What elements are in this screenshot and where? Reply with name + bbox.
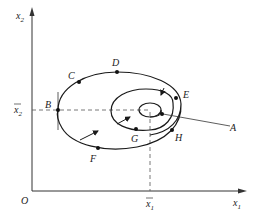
point-h — [170, 128, 174, 132]
label-g: G — [131, 133, 138, 144]
point-b — [56, 108, 60, 112]
label-x2-bar: x2 — [13, 104, 22, 118]
point-d — [115, 70, 119, 74]
point-g — [134, 127, 138, 131]
label-c: C — [68, 70, 75, 81]
y-axis-arrow-icon — [30, 7, 35, 16]
label-b: B — [45, 99, 51, 110]
point-f — [96, 146, 100, 150]
x-axis-arrow-icon — [238, 189, 247, 194]
label-e: E — [182, 89, 189, 100]
label-a: A — [229, 122, 237, 133]
arrow-icon — [117, 117, 130, 124]
faint-caption — [60, 208, 250, 216]
phase-diagram: x2 x1 O x2 x1 A B C D E F G H — [0, 0, 253, 220]
label-origin: O — [21, 195, 28, 206]
label-h: H — [174, 132, 183, 143]
label-y-axis: x2 — [15, 10, 24, 24]
spiral-trajectory — [57, 72, 181, 149]
point-e — [174, 96, 178, 100]
point-a — [160, 112, 164, 116]
arrow-icon — [80, 131, 98, 140]
axes — [30, 7, 248, 194]
label-d: D — [111, 57, 120, 68]
point-c — [77, 80, 81, 84]
label-f: F — [89, 153, 97, 164]
